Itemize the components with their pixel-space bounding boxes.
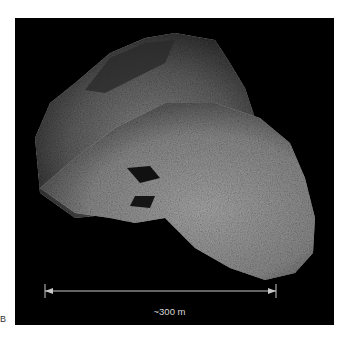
scale-bar-label: ~300 m — [15, 306, 334, 317]
asteroid-image-panel: ~300 m — [15, 18, 334, 325]
scale-bar — [45, 284, 276, 298]
panel-label: B — [0, 314, 7, 324]
asteroid-illustration — [15, 18, 334, 325]
scale-bar-text: ~300 m — [154, 306, 186, 317]
